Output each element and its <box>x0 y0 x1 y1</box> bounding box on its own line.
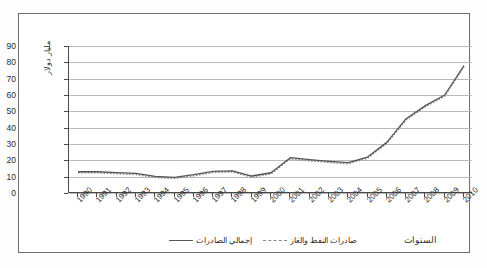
chart-outer-frame: مليار دولار 9080706050403020100 19901991… <box>18 13 470 253</box>
y-axis-tick-label: 40 <box>0 124 16 132</box>
legend-item-label: صادرات النفط والغاز <box>290 236 357 245</box>
y-axis-tick-label: 30 <box>0 140 16 148</box>
plot-area <box>68 46 472 193</box>
legend-item-label: إجمالي الصادرات <box>196 236 252 245</box>
y-axis-tick-label: 70 <box>0 75 16 83</box>
scanned-page-background: مليار دولار 9080706050403020100 19901991… <box>0 0 487 268</box>
chart-legend: إجمالي الصادراتصادرات النفط والغاز <box>169 233 364 247</box>
y-axis-title: مليار دولار <box>39 0 48 41</box>
y-axis-title-text: مليار دولار <box>43 41 52 85</box>
y-axis-tick-label: 80 <box>0 58 16 66</box>
x-axis-title: السنوات <box>404 235 437 245</box>
legend-item[interactable]: إجمالي الصادرات <box>169 236 252 245</box>
series-line-total-exports <box>78 66 464 178</box>
legend-solid-line-icon <box>169 240 193 241</box>
legend-item[interactable]: صادرات النفط والغاز <box>263 236 357 245</box>
y-axis-tick-label: 60 <box>0 91 16 99</box>
series-line-oil-gas-exports <box>78 67 464 179</box>
y-axis-tick-label: 20 <box>0 156 16 164</box>
legend-dotted-line-icon <box>263 240 287 241</box>
y-axis-tick-label: 0 <box>0 189 16 197</box>
y-axis-tick-label: 10 <box>0 173 16 181</box>
y-axis-tick-label: 90 <box>0 42 16 50</box>
y-axis-tick-label: 50 <box>0 107 16 115</box>
data-series-layer <box>69 46 473 193</box>
y-axis-tick-mark <box>64 193 68 194</box>
